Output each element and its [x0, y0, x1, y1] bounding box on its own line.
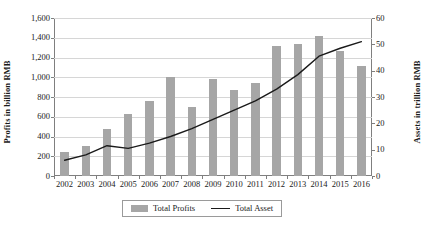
- y-axis-title-left: Profits in billion RMB: [2, 47, 12, 157]
- x-tick-label: 2003: [75, 179, 96, 190]
- x-tick-label: 2010: [224, 179, 245, 190]
- bar-swatch-icon: [131, 205, 148, 212]
- x-tick-mark: [287, 176, 288, 179]
- x-tick-mark: [202, 176, 203, 179]
- y-tick-label-left: 1,200: [31, 53, 50, 62]
- y-tick-label-right: 50: [376, 40, 385, 49]
- x-tick-mark: [308, 176, 309, 179]
- x-tick-label: 2014: [308, 179, 329, 190]
- y-tick-mark-right: [372, 150, 375, 151]
- chart-container: Profits in billion RMB Assets in trillio…: [0, 0, 422, 229]
- x-tick-label: 2005: [118, 179, 139, 190]
- x-tick-label: 2007: [160, 179, 181, 190]
- line-swatch-icon: [211, 208, 230, 209]
- x-tick-mark: [266, 176, 267, 179]
- y-tick-label-left: 1,600: [31, 14, 50, 23]
- y-tick-mark-right: [372, 71, 375, 72]
- x-tick-mark: [181, 176, 182, 179]
- y-tick-label-right: 0: [376, 172, 380, 181]
- x-tick-mark: [372, 176, 373, 179]
- x-tick-mark: [118, 176, 119, 179]
- y-tick-label-left: 200: [37, 152, 50, 161]
- x-tick-mark: [330, 176, 331, 179]
- y-tick-label-left: 1,000: [31, 73, 50, 82]
- y-tick-mark-right: [372, 18, 375, 19]
- y-tick-label-left: 600: [37, 112, 50, 121]
- x-tick-mark: [54, 176, 55, 179]
- x-tick-mark: [351, 176, 352, 179]
- x-tick-label: 2002: [54, 179, 75, 190]
- x-tick-label: 2008: [181, 179, 202, 190]
- legend-label-total-profits: Total Profits: [153, 203, 195, 213]
- x-tick-label: 2004: [96, 179, 117, 190]
- x-tick-label: 2012: [266, 179, 287, 190]
- x-tick-mark: [139, 176, 140, 179]
- y-tick-mark-right: [372, 44, 375, 45]
- x-tick-label: 2009: [202, 179, 223, 190]
- y-tick-mark-right: [372, 97, 375, 98]
- y-tick-label-left: 400: [37, 132, 50, 141]
- x-tick-mark: [245, 176, 246, 179]
- x-tick-mark: [75, 176, 76, 179]
- y-tick-label-right: 20: [376, 119, 385, 128]
- y-tick-mark-right: [372, 123, 375, 124]
- legend-item-total-asset: Total Asset: [211, 203, 273, 213]
- y-tick-label-left: 0: [46, 172, 50, 181]
- x-tick-label: 2016: [351, 179, 372, 190]
- x-tick-mark: [96, 176, 97, 179]
- y-axis-title-right: Assets in trillion RMB: [412, 47, 422, 157]
- y-tick-label-right: 40: [376, 66, 385, 75]
- y-tick-label-right: 10: [376, 145, 385, 154]
- x-tick-mark: [224, 176, 225, 179]
- x-tick-label: 2015: [330, 179, 351, 190]
- legend-label-total-asset: Total Asset: [235, 203, 273, 213]
- y-tick-label-left: 800: [37, 93, 50, 102]
- x-tick-label: 2013: [287, 179, 308, 190]
- y-tick-label-left: 1,400: [31, 33, 50, 42]
- y-tick-label-right: 60: [376, 14, 385, 23]
- line-series-total-asset: [54, 18, 372, 176]
- x-tick-label: 2006: [139, 179, 160, 190]
- x-tick-mark: [160, 176, 161, 179]
- x-axis-labels: 2002200320042005200620072008200920102011…: [54, 179, 372, 193]
- y-tick-label-right: 30: [376, 93, 385, 102]
- plot-area: 02004006008001,0001,2001,4001,600 010203…: [54, 18, 372, 176]
- x-tick-label: 2011: [245, 179, 266, 190]
- chart-legend: Total Profits Total Asset: [122, 200, 282, 217]
- legend-item-total-profits: Total Profits: [131, 203, 195, 213]
